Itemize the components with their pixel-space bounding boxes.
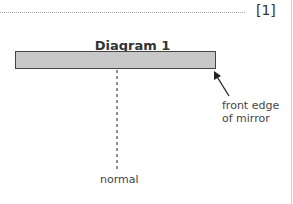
front-edge-label-line1: front edge — [222, 99, 279, 112]
front-edge-label-line2: of mirror — [222, 112, 279, 125]
arrow-shaft — [216, 75, 229, 96]
front-edge-label: front edge of mirror — [222, 99, 279, 125]
normal-label: normal — [100, 173, 139, 186]
